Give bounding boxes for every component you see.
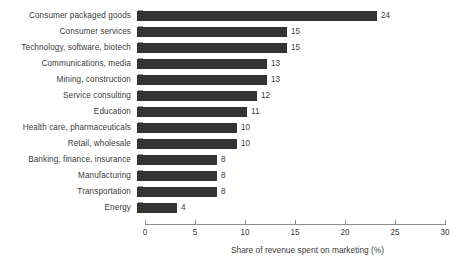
bar-value-label: 8 [221, 154, 226, 165]
bar-value-label: 13 [271, 74, 280, 85]
chart-row: Manufacturing8 [0, 168, 470, 184]
bar-container: 8 [137, 168, 470, 184]
x-axis-tick-label: 30 [440, 228, 449, 238]
x-axis-tick [345, 220, 346, 225]
chart-row: Education11 [0, 104, 470, 120]
chart-row: Retail, wholesale10 [0, 136, 470, 152]
bar-container: 12 [137, 88, 470, 104]
bar-container: 11 [137, 104, 470, 120]
bar-value-label: 10 [241, 138, 250, 149]
category-label: Mining, construction [0, 75, 137, 85]
bar [137, 11, 377, 21]
x-axis-tick [245, 220, 246, 225]
chart-row: Health care, pharmaceuticals10 [0, 120, 470, 136]
bar-value-label: 4 [181, 202, 186, 213]
chart-row: Mining, construction13 [0, 72, 470, 88]
x-axis-tick-label: 0 [143, 228, 148, 238]
bar-container: 4 [137, 200, 470, 216]
category-label: Communications, media [0, 59, 137, 69]
bar-container: 8 [137, 184, 470, 200]
x-axis-tick [445, 220, 446, 225]
bar [137, 139, 237, 149]
category-label: Consumer packaged goods [0, 11, 137, 21]
bar-value-label: 15 [291, 26, 300, 37]
bar-container: 10 [137, 136, 470, 152]
category-label: Banking, finance, insurance [0, 155, 137, 165]
bar-value-label: 24 [381, 10, 390, 21]
bar-value-label: 10 [241, 122, 250, 133]
chart-row: Banking, finance, insurance8 [0, 152, 470, 168]
category-label: Energy [0, 203, 137, 213]
bar-container: 15 [137, 24, 470, 40]
bar-chart: Consumer packaged goods24Consumer servic… [0, 0, 470, 264]
bar [137, 107, 247, 117]
x-axis-tick-label: 15 [290, 228, 299, 238]
bar [137, 59, 267, 69]
bar [137, 203, 177, 213]
chart-row: Consumer services15 [0, 24, 470, 40]
x-axis-title-text: Share of revenue spent on marketing (%) [86, 245, 384, 255]
category-label: Service consulting [0, 91, 137, 101]
bar-container: 10 [137, 120, 470, 136]
x-axis-tick [295, 220, 296, 225]
bar [137, 123, 237, 133]
category-label: Retail, wholesale [0, 139, 137, 149]
x-axis-tick-label: 25 [390, 228, 399, 238]
bar-container: 8 [137, 152, 470, 168]
category-label: Transportation [0, 187, 137, 197]
bar [137, 75, 267, 85]
category-label: Education [0, 107, 137, 117]
chart-row: Technology, software, biotech15 [0, 40, 470, 56]
x-axis-tick [145, 220, 146, 225]
bar [137, 171, 217, 181]
bar-value-label: 12 [261, 90, 270, 101]
bar-value-label: 15 [291, 42, 300, 53]
chart-row: Energy4 [0, 200, 470, 216]
bar-value-label: 13 [271, 58, 280, 69]
bar-container: 15 [137, 40, 470, 56]
x-axis-tick [195, 220, 196, 225]
x-axis-tick [395, 220, 396, 225]
bar [137, 187, 217, 197]
bar-value-label: 8 [221, 186, 226, 197]
bar [137, 155, 217, 165]
category-label: Technology, software, biotech [0, 43, 137, 53]
bar-container: 13 [137, 56, 470, 72]
chart-row: Transportation8 [0, 184, 470, 200]
category-label: Health care, pharmaceuticals [0, 123, 137, 133]
x-axis-tick-label: 5 [193, 228, 198, 238]
bar [137, 91, 257, 101]
x-axis-title: Share of revenue spent on marketing (%) [0, 245, 470, 255]
chart-rows: Consumer packaged goods24Consumer servic… [0, 8, 470, 216]
chart-row: Service consulting12 [0, 88, 470, 104]
bar [137, 43, 287, 53]
bar [137, 27, 287, 37]
bar-value-label: 8 [221, 170, 226, 181]
category-label: Manufacturing [0, 171, 137, 181]
x-axis-tick-label: 10 [240, 228, 249, 238]
category-label: Consumer services [0, 27, 137, 37]
chart-row: Communications, media13 [0, 56, 470, 72]
chart-row: Consumer packaged goods24 [0, 8, 470, 24]
x-axis-tick-label: 20 [340, 228, 349, 238]
bar-container: 24 [137, 8, 470, 24]
bar-value-label: 11 [251, 106, 260, 117]
bar-container: 13 [137, 72, 470, 88]
